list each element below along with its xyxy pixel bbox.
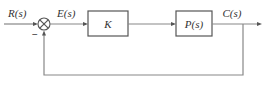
output-signal-label: C(s) (223, 7, 242, 20)
feedback-path-line (44, 24, 243, 75)
feedback-sign-label: − (32, 29, 38, 40)
summing-junction (38, 18, 50, 30)
error-arrow-icon (83, 22, 88, 26)
plant-block-label: P(s) (184, 18, 204, 31)
control-arrow-icon (171, 22, 176, 26)
controller-block: K (88, 11, 128, 36)
feedback-arrow-icon (42, 31, 46, 36)
error-signal-label: E(s) (56, 7, 76, 20)
plant-block: P(s) (176, 11, 212, 36)
output-arrow-icon (257, 22, 262, 26)
input-signal-label: R(s) (7, 7, 27, 20)
input-arrow-icon (33, 22, 38, 26)
controller-block-label: K (103, 18, 112, 30)
block-diagram: R(s) − E(s) K P(s) C(s) (0, 0, 269, 87)
